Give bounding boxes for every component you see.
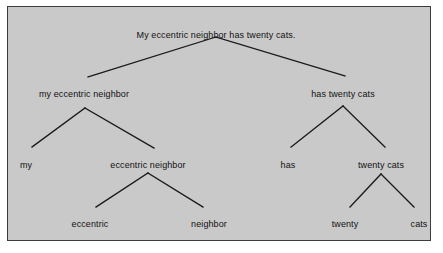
tree-node-plural-noun: cats bbox=[411, 219, 428, 230]
tree-node-verb: has bbox=[281, 160, 296, 171]
branch-np-to-nom bbox=[85, 108, 154, 148]
tree-node-noun: neighbor bbox=[191, 219, 227, 230]
tree-node-root: My eccentric neighbor has twenty cats. bbox=[137, 30, 296, 41]
branch-vp-to-object-np bbox=[343, 106, 385, 147]
tree-node-adj: eccentric bbox=[72, 219, 109, 230]
syntax-tree-figure: My eccentric neighbor has twenty cats.my… bbox=[0, 0, 443, 253]
tree-node-nom: eccentric neighbor bbox=[110, 160, 185, 171]
branch-root-to-np bbox=[88, 37, 216, 77]
tree-node-vp: has twenty cats bbox=[311, 89, 375, 100]
tree-node-numeral: twenty bbox=[332, 219, 359, 230]
branch-nom-to-adj bbox=[96, 173, 148, 207]
branch-object-np-to-plural-noun bbox=[381, 174, 414, 207]
branch-vp-to-verb bbox=[291, 106, 343, 147]
branch-np-to-det bbox=[32, 108, 85, 147]
tree-node-np: my eccentric neighbor bbox=[39, 89, 129, 100]
tree-node-det: my bbox=[20, 160, 32, 171]
branch-object-np-to-numeral bbox=[350, 174, 381, 207]
tree-node-object-np: twenty cats bbox=[358, 160, 404, 171]
branch-nom-to-noun bbox=[148, 173, 203, 207]
branch-root-to-vp bbox=[216, 37, 345, 76]
